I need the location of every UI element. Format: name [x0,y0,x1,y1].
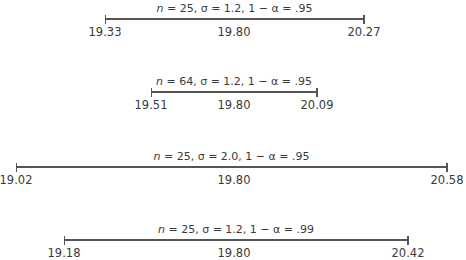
interval-line [64,239,408,241]
lower-bound-label: 19.18 [48,246,81,260]
interval-line [151,91,317,93]
mean-label: 19.80 [218,246,251,260]
upper-bound-label: 20.42 [392,246,425,260]
upper-bound-label: 20.58 [431,173,464,187]
lower-end-tick [64,236,66,245]
interval-line [16,166,447,168]
lower-bound-label: 19.02 [0,173,32,187]
upper-end-tick [446,163,448,172]
interval-caption: n = 25, σ = 2.0, 1 − α = .95 [153,150,309,163]
upper-end-tick [407,236,409,245]
interval-caption: n = 25, σ = 1.2, 1 − α = .99 [158,223,314,236]
upper-bound-label: 20.09 [301,98,334,112]
interval-caption: n = 64, σ = 1.2, 1 − α = .95 [156,75,312,88]
upper-end-tick [316,88,318,97]
lower-bound-label: 19.51 [135,98,168,112]
mean-label: 19.80 [218,98,251,112]
interval-4: n = 25, σ = 1.2, 1 − α = .9919.1819.8020… [0,0,466,60]
lower-end-tick [151,88,153,97]
mean-label: 19.80 [218,173,251,187]
lower-end-tick [16,163,18,172]
